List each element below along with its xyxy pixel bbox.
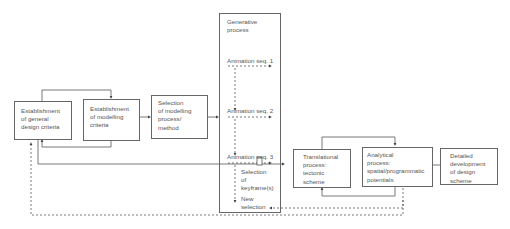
text-line: New <box>241 195 265 203</box>
text-line: tectonic <box>303 169 344 177</box>
text-line: of modelling <box>90 113 133 121</box>
text-line: of <box>241 176 274 184</box>
animation-seq-1: Animation seq. 1 <box>227 57 273 65</box>
generative-process-title: Generative process <box>227 18 257 34</box>
text-line: Establishment <box>90 105 133 113</box>
text-line: process/ <box>158 115 201 123</box>
box-detailed-development: Detailed development of design scheme <box>440 148 498 185</box>
text-line: process: <box>367 159 426 167</box>
text-line: process: <box>303 161 344 169</box>
text-line: Translational <box>303 153 344 161</box>
text-line: selection <box>241 203 265 211</box>
text-line: keyframe(s) <box>241 184 274 192</box>
text-line: development <box>450 160 491 168</box>
text-line: scheme <box>303 178 344 186</box>
text-line: design criteria <box>21 123 65 131</box>
text-line: Selection <box>241 168 274 176</box>
box-translational-process: Translational process: tectonic scheme <box>293 149 351 188</box>
selection-of-keyframes: Selection of keyframe(s) <box>241 168 274 193</box>
text-line: criteria <box>90 121 133 129</box>
text-line: Selection <box>158 99 201 107</box>
text-line: scheme <box>450 177 491 185</box>
text-line: of modelling <box>158 107 201 115</box>
text-line: spatial/programmatic <box>367 167 426 175</box>
box-modelling-criteria: Establishment of modelling criteria <box>83 99 140 141</box>
text-line: of general <box>21 115 65 123</box>
box-selection-method: Selection of modelling process/ method <box>151 95 208 139</box>
text-line: of design <box>450 168 491 176</box>
text-line: Analytical <box>367 151 426 159</box>
box-general-design-criteria: Establishment of general design criteria <box>14 101 72 140</box>
text-line: Establishment <box>21 107 65 115</box>
animation-seq-3: Animation seq. 3 <box>227 153 273 161</box>
text-line: potentials <box>367 176 426 184</box>
text-line: process <box>227 26 257 34</box>
animation-seq-2: Animation seq. 2 <box>227 107 273 115</box>
text-line: Detailed <box>450 152 491 160</box>
box-analytical-process: Analytical process: spatial/programmatic… <box>362 147 433 187</box>
new-selection: New selection <box>241 195 265 211</box>
text-line: method <box>158 124 201 132</box>
text-line: Generative <box>227 18 257 26</box>
